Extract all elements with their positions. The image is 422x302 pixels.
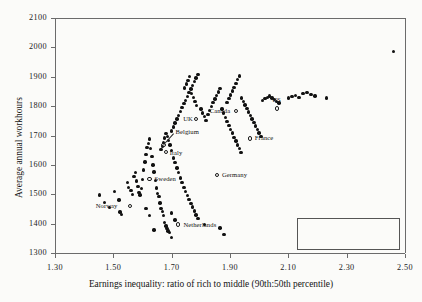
- data-point: [231, 131, 234, 134]
- data-point: [325, 96, 328, 99]
- data-point: [191, 84, 194, 87]
- country-average-marker-france: [248, 136, 252, 140]
- country-label-norway: Norway: [96, 202, 118, 209]
- country-label-canada: Canada: [210, 107, 230, 114]
- plot-top-border: [55, 18, 405, 19]
- x-tick-label: 1.50: [97, 263, 129, 272]
- country-average-marker-canada: [234, 109, 238, 113]
- data-point: [213, 97, 216, 100]
- data-point: [126, 181, 129, 184]
- data-point: [147, 142, 150, 145]
- country-label-uk: UK: [183, 115, 193, 122]
- data-point: [148, 137, 151, 140]
- data-point: [180, 181, 183, 184]
- plot-right-border: [405, 18, 406, 253]
- data-point: [136, 185, 139, 188]
- y-tick-mark: [51, 194, 55, 195]
- data-point: [184, 99, 187, 102]
- y-tick-mark: [51, 165, 55, 166]
- y-axis-title: Average annual workhours: [14, 97, 24, 198]
- data-point: [186, 79, 189, 82]
- x-tick-label: 1.70: [156, 263, 188, 272]
- data-point: [217, 90, 220, 93]
- data-point: [290, 95, 293, 98]
- chart-legend: Country average Annual data: [297, 218, 400, 250]
- data-point: [177, 114, 180, 117]
- data-point: [185, 82, 188, 85]
- data-point: [135, 179, 138, 182]
- x-tick-label: 1.90: [214, 263, 246, 272]
- country-label-germany: Germany: [222, 171, 247, 178]
- data-point: [186, 194, 189, 197]
- data-point: [194, 213, 197, 216]
- data-point: [184, 190, 187, 193]
- data-point: [142, 168, 145, 171]
- data-point: [175, 166, 178, 169]
- country-label-italy: Italy: [170, 149, 183, 156]
- data-point: [172, 156, 175, 159]
- data-point: [305, 91, 308, 94]
- data-point: [238, 147, 241, 150]
- data-point: [144, 153, 147, 156]
- data-point: [120, 213, 123, 216]
- data-point: [151, 163, 154, 166]
- country-label-france: France: [255, 134, 274, 141]
- y-tick-label: 2100: [13, 13, 47, 22]
- data-point: [168, 143, 171, 146]
- data-point: [149, 147, 152, 150]
- data-point: [168, 231, 171, 234]
- data-point: [170, 236, 173, 239]
- data-point: [392, 50, 395, 53]
- data-point: [309, 93, 312, 96]
- x-tick-label: 2.30: [331, 263, 363, 272]
- data-point: [234, 82, 237, 85]
- x-tick-mark: [347, 254, 348, 258]
- country-average-marker-us: [275, 106, 279, 110]
- data-point: [144, 207, 147, 210]
- data-point: [193, 80, 196, 83]
- y-tick-mark: [51, 47, 55, 48]
- data-point: [301, 92, 304, 95]
- country-average-marker-netherlands: [176, 222, 180, 226]
- x-tick-mark: [172, 254, 173, 258]
- data-point: [190, 92, 193, 95]
- country-average-marker-sweden: [147, 177, 151, 181]
- data-point: [134, 171, 137, 174]
- data-point: [188, 75, 191, 78]
- data-point: [138, 193, 141, 196]
- country-average-marker-norway: [128, 204, 132, 208]
- data-point: [173, 161, 176, 164]
- y-tick-label: 1900: [13, 72, 47, 81]
- x-tick-mark: [230, 254, 231, 258]
- data-point: [180, 106, 183, 109]
- y-tick-mark: [51, 18, 55, 19]
- data-point: [215, 94, 218, 97]
- data-point: [159, 148, 162, 151]
- data-point: [157, 195, 160, 198]
- data-point: [117, 198, 120, 201]
- data-point: [186, 95, 189, 98]
- y-tick-label: 1400: [13, 219, 47, 228]
- data-point: [225, 101, 228, 104]
- scatter-chart-figure: 130014001500160017001800190020002100 1.3…: [0, 0, 422, 302]
- data-point: [218, 87, 221, 90]
- data-point: [131, 193, 134, 196]
- data-point: [179, 176, 182, 179]
- data-point: [170, 211, 173, 214]
- data-point: [238, 74, 241, 77]
- data-point: [177, 171, 180, 174]
- y-tick-label: 2000: [13, 42, 47, 51]
- data-point: [239, 151, 242, 154]
- data-point: [141, 178, 144, 181]
- y-tick-label: 1300: [13, 248, 47, 257]
- data-point: [232, 86, 235, 89]
- x-tick-mark: [113, 254, 114, 258]
- country-label-sweden: Sweden: [155, 175, 176, 182]
- data-point: [211, 101, 214, 104]
- country-average-marker-italy: [164, 150, 168, 154]
- data-point: [204, 119, 207, 122]
- data-point: [143, 160, 146, 163]
- x-tick-label: 2.50: [389, 263, 421, 272]
- country-label-belgium: Belgium: [176, 128, 199, 135]
- data-point: [225, 120, 228, 123]
